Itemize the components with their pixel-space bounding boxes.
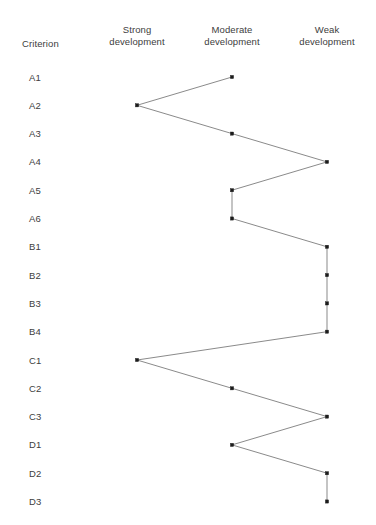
data-point-a1 bbox=[230, 75, 233, 78]
data-point-c1 bbox=[135, 358, 138, 361]
profile-plot-area bbox=[0, 0, 376, 525]
data-point-c2 bbox=[230, 387, 233, 390]
data-point-a2 bbox=[135, 104, 138, 107]
data-point-a6 bbox=[230, 217, 233, 220]
data-point-d1 bbox=[230, 443, 233, 446]
data-point-a5 bbox=[230, 189, 233, 192]
data-point-b4 bbox=[325, 330, 328, 333]
data-point-a4 bbox=[325, 160, 328, 163]
data-point-d3 bbox=[325, 500, 328, 503]
data-point-a3 bbox=[230, 132, 233, 135]
profile-line bbox=[137, 77, 327, 502]
data-point-b1 bbox=[325, 245, 328, 248]
data-point-b3 bbox=[325, 302, 328, 305]
data-point-d2 bbox=[325, 472, 328, 475]
profile-chart: Criterion Strong developmentModerate dev… bbox=[0, 0, 376, 525]
data-point-c3 bbox=[325, 415, 328, 418]
data-point-markers bbox=[135, 75, 328, 503]
data-point-b2 bbox=[325, 274, 328, 277]
